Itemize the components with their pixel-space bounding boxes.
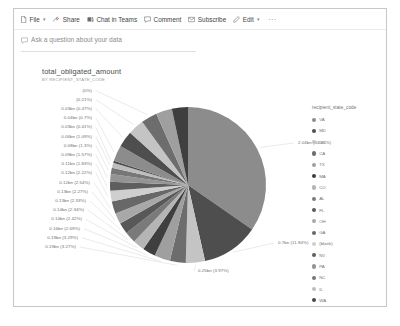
edit-button[interactable]: Edit ▾ (233, 16, 260, 23)
legend-item[interactable]: PA (312, 261, 378, 272)
share-icon (53, 16, 60, 23)
edit-label: Edit (243, 16, 254, 23)
legend-item[interactable]: MA (312, 170, 378, 181)
legend-item-label: PA (319, 264, 325, 269)
pie-data-label: 0.19bn (3.27%) (45, 244, 76, 249)
pie-data-label: 0.14bn (2.42%) (51, 216, 82, 221)
legend-title: recipient_state_code (312, 105, 378, 110)
leader-line (96, 127, 111, 160)
comment-icon (144, 16, 151, 23)
legend-item-label: IL (319, 287, 323, 292)
pie-chart-visual[interactable]: total_obligated_amount BY RECIPIENT_STAT… (28, 59, 380, 302)
file-menu-label: File (30, 16, 40, 23)
legend-item-label: FL (319, 208, 324, 213)
legend-item[interactable]: CA (312, 148, 378, 159)
legend-item-label: GA (319, 230, 325, 235)
pie-data-label: 0.16bn (2.69%) (49, 226, 80, 231)
pencil-icon (233, 16, 240, 23)
leader-line (96, 91, 148, 115)
legend-color-swatch (312, 118, 316, 122)
legend-item-label: TX (319, 162, 325, 167)
legend-item[interactable]: FL (312, 204, 378, 215)
qa-placeholder-text: Ask a question about your data (31, 36, 122, 43)
legend-item-list[interactable]: VAMDDCCATXMACOALFLOHGA(blank)NVPANCILWA (312, 114, 378, 306)
legend-item[interactable]: TX (312, 159, 378, 170)
pie-data-label: 0.06bn (1.09%) (61, 134, 92, 139)
legend-color-swatch (312, 197, 316, 201)
chevron-down-icon: ▾ (257, 16, 260, 22)
legend-item-label: NV (319, 253, 325, 258)
legend-item[interactable]: CO (312, 182, 378, 193)
pie-data-label: 0.11bn (1.83%) (62, 161, 92, 166)
legend-item-label: MD (319, 128, 326, 133)
pie-data-label: 0.12bn (2.54%) (59, 180, 90, 185)
legend-color-swatch (312, 276, 316, 280)
legend-item[interactable]: AL (312, 193, 378, 204)
legend-color-swatch (312, 287, 316, 291)
pie-data-label: 0.13bn (2.27%) (57, 189, 88, 194)
legend-item-label: CO (319, 185, 326, 190)
leader-line (96, 118, 114, 152)
legend-color-swatch (312, 264, 316, 268)
command-bar: File ▾ Share Chat in Teams Comment (14, 9, 386, 30)
file-menu-button[interactable]: File ▾ (20, 16, 46, 23)
legend-item[interactable]: GA (312, 227, 378, 238)
subscribe-icon (188, 16, 195, 23)
pie-data-label: 0.03bn (0.41%) (61, 124, 92, 129)
teams-icon (87, 16, 94, 23)
leader-line (96, 137, 110, 165)
chat-in-teams-button[interactable]: Chat in Teams (87, 16, 137, 23)
legend-item[interactable]: MD (312, 125, 378, 136)
legend-item[interactable]: (blank) (312, 238, 378, 249)
legend-item[interactable]: DC (312, 137, 378, 148)
pie-data-label: 0.09bn (1.57%) (61, 152, 92, 157)
legend-item[interactable]: NV (312, 250, 378, 261)
pie-slices[interactable] (110, 107, 266, 263)
pie-data-label: 0.14bn (2.34%) (53, 207, 84, 212)
legend-item[interactable]: OH (312, 216, 378, 227)
share-button[interactable]: Share (53, 16, 80, 23)
file-icon (20, 16, 27, 23)
legend-color-swatch (312, 163, 316, 167)
more-options-button[interactable]: ··· (268, 16, 277, 23)
pie-data-label: 0.04bn (0.7%) (64, 115, 92, 120)
legend-color-swatch (312, 208, 316, 212)
legend-item[interactable]: WA (312, 295, 378, 306)
legend-color-swatch (312, 185, 316, 189)
comment-button[interactable]: Comment (144, 16, 181, 23)
leader-line (96, 109, 123, 137)
legend-item-label: AL (319, 196, 324, 201)
legend-item-label: MA (319, 174, 326, 179)
legend-item[interactable]: VA (312, 114, 378, 125)
legend-color-swatch (312, 231, 316, 235)
comment-label: Comment (154, 16, 182, 23)
legend-color-swatch (312, 174, 316, 178)
pie-data-label: 0.08bn (1.3%) (64, 143, 92, 148)
legend-item-label: OH (319, 219, 326, 224)
legend-item[interactable]: IL (312, 283, 378, 294)
legend-color-swatch (312, 140, 316, 144)
qa-input[interactable]: Ask a question about your data (21, 30, 196, 52)
visual-subtitle: BY RECIPIENT_STATE_CODE (42, 77, 105, 82)
leader-line (96, 164, 107, 186)
leader-line (96, 100, 134, 125)
legend-item[interactable]: NC (312, 272, 378, 283)
pie-data-label: 0.7bn (11.84%) (278, 240, 308, 245)
report-window: File ▾ Share Chat in Teams Comment (13, 8, 387, 307)
subscribe-button[interactable]: Subscribe (188, 16, 226, 23)
legend-color-swatch (312, 219, 316, 223)
leader-line (233, 243, 274, 252)
legend-color-swatch (312, 129, 316, 133)
legend-item-label: CA (319, 151, 325, 156)
leader-line (96, 155, 107, 178)
legend-item-label: DC (319, 140, 325, 145)
pie-plot-area: 2.04bn (34.65%)0.7bn (11.84%)0.25bn (3.9… (28, 85, 308, 285)
legend-color-swatch (312, 242, 316, 246)
visual-title: total_obligated_amount (42, 67, 121, 76)
pie-data-label: (0.21%) (76, 97, 92, 102)
chart-legend: recipient_state_code VAMDDCCATXMACOALFLO… (312, 105, 378, 306)
leader-line (194, 266, 196, 271)
pie-data-label: (0%) (83, 88, 92, 93)
pie-data-label: 0.03bn (0.47%) (61, 106, 92, 111)
chevron-down-icon: ▾ (43, 16, 46, 22)
